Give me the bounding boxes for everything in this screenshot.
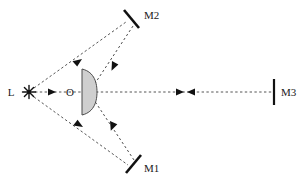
light-source-starburst-icon <box>23 86 36 99</box>
arrow-source-to-lens-icon <box>48 88 56 95</box>
arrow-lens-to-m3-icon <box>176 88 184 95</box>
mirror-m2 <box>124 10 139 28</box>
label-mirror-m1: M1 <box>144 162 159 174</box>
plano-convex-lens <box>82 69 97 115</box>
label-light-source: L <box>8 86 15 98</box>
mirror-m1 <box>126 155 141 173</box>
ray-m2-to-lens <box>92 26 133 88</box>
arrow-m1-to-lens-icon <box>110 121 117 131</box>
arrow-m3-to-lens-icon <box>187 88 195 95</box>
lens-body <box>82 69 97 115</box>
label-lens-center: O <box>66 86 74 98</box>
label-mirror-m3: M3 <box>281 86 297 98</box>
ray-source-to-m2 <box>34 22 126 88</box>
ray-source-to-m1 <box>34 97 128 165</box>
optics-diagram: L O M2 M1 M3 <box>0 0 306 184</box>
label-mirror-m2: M2 <box>144 9 159 21</box>
optics-diagram-canvas: L O M2 M1 M3 <box>0 0 306 184</box>
arrow-m2-to-lens-icon <box>112 61 119 71</box>
arrow-source-to-m2-icon <box>73 59 83 67</box>
